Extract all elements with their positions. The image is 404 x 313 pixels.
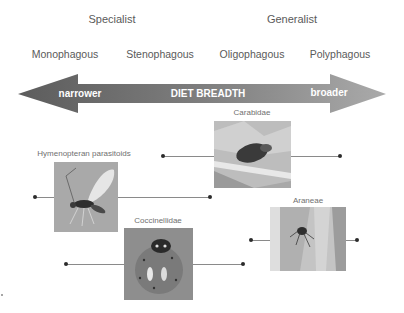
taxon-label-carabidae: Carabidae [234,108,271,117]
ground-beetle-photo [214,121,291,188]
range-dot-carabidae-start [161,154,165,158]
parasitoid-wasp-photo [54,162,118,232]
arrow-label-narrower: narrower [59,88,102,99]
range-dot-carabidae-end [338,154,342,158]
range-dot-araneae-end [355,238,359,242]
range-dot-coccinellidae-start [64,262,68,266]
spider-photo [270,207,346,271]
taxon-label-coccinellidae: Coccinellidae [134,216,182,225]
range-dot-hymenopteran-end [208,195,212,199]
taxon-label-hymenopteran-parasitoids: Hymenopteran parasitoids [37,149,130,158]
range-dot-coccinellidae-end [241,262,245,266]
taxon-label-araneae: Araneae [293,196,323,205]
stray-mark [1,294,3,296]
arrow-label-broader: broader [310,87,347,98]
arrow-label-diet-breadth: DIET BREADTH [171,88,245,99]
range-dot-hymenopteran-start [33,195,37,199]
range-dot-araneae-start [249,238,253,242]
ladybird-beetle-photo [124,228,193,300]
